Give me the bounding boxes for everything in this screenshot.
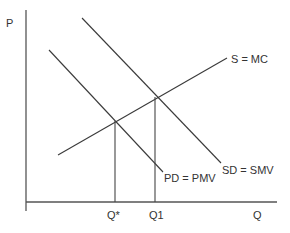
supply-curve: [58, 58, 227, 155]
private-demand-curve: [49, 50, 163, 172]
x-axis-label: Q: [253, 209, 262, 221]
externality-diagram: P Q S = MC SD = SMV PD = PMV Q* Q1: [0, 0, 290, 233]
q1-label: Q1: [149, 209, 164, 221]
social-demand-curve: [82, 18, 221, 163]
q-star-label: Q*: [107, 209, 121, 221]
supply-curve-label: S = MC: [231, 53, 268, 65]
social-demand-label: SD = SMV: [222, 164, 274, 176]
y-axis-label: P: [6, 17, 13, 29]
private-demand-label: PD = PMV: [164, 172, 216, 184]
